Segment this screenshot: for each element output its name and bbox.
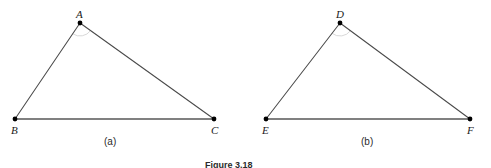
- angle-arc-d: [332, 31, 350, 36]
- panel-label-a: (a): [104, 137, 116, 147]
- triangles-canvas: [0, 0, 491, 168]
- edge-AB: [15, 23, 80, 119]
- geometry-figure: A B C D E F (a) (b) Figure 3.18: [0, 0, 491, 168]
- vertex-label-c: C: [211, 125, 218, 136]
- vertex-label-d: D: [336, 9, 344, 20]
- triangle-abc: [13, 21, 217, 122]
- vertex-dot-b: [13, 117, 18, 122]
- edge-AC: [80, 23, 214, 119]
- panel-label-b: (b): [361, 137, 373, 147]
- edge-DE: [266, 23, 340, 119]
- edge-DF: [340, 23, 470, 119]
- figure-caption: Figure 3.18: [205, 161, 285, 168]
- triangle-def: [264, 21, 473, 122]
- vertex-label-a: A: [76, 9, 83, 20]
- vertex-dot-f: [468, 117, 473, 122]
- vertex-dot-d: [338, 21, 343, 26]
- vertex-dot-c: [212, 117, 217, 122]
- vertex-dot-e: [264, 117, 269, 122]
- vertex-dot-a: [78, 21, 83, 26]
- vertex-label-e: E: [262, 125, 269, 136]
- angle-arc-a: [73, 31, 91, 36]
- vertex-label-b: B: [11, 125, 18, 136]
- vertex-label-f: F: [467, 125, 474, 136]
